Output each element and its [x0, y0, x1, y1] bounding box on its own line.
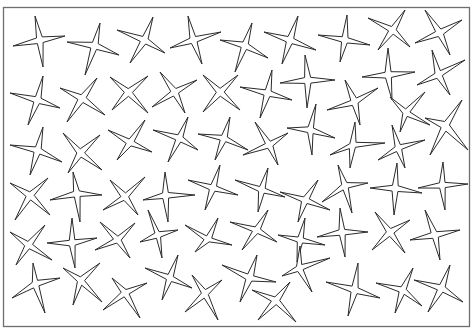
four-point-star-icon — [50, 172, 102, 222]
four-point-star-icon — [13, 16, 65, 67]
four-point-star-icon — [47, 218, 97, 268]
four-point-star-icon — [103, 278, 147, 318]
four-point-star-icon — [410, 210, 460, 260]
four-point-star-icon — [185, 275, 222, 320]
four-point-star-icon — [327, 80, 378, 125]
four-point-star-icon — [145, 255, 192, 300]
four-point-star-icon — [203, 75, 240, 112]
four-point-star-icon — [140, 210, 178, 258]
four-point-star-icon — [10, 127, 62, 175]
four-point-star-icon — [103, 177, 145, 215]
four-point-star-icon — [12, 263, 60, 313]
four-point-star-icon — [152, 72, 197, 113]
four-point-star-icon — [368, 10, 410, 50]
four-point-star-icon — [185, 218, 232, 252]
four-point-star-icon — [415, 10, 462, 55]
four-point-star-icon — [220, 23, 268, 72]
four-point-star-icon — [10, 76, 60, 125]
four-point-star-icon — [188, 165, 238, 210]
four-point-star-icon — [63, 263, 102, 305]
stars-group — [10, 10, 468, 322]
four-point-star-icon — [372, 212, 410, 253]
four-point-star-icon — [418, 162, 468, 210]
four-point-star-icon — [378, 125, 425, 168]
four-point-star-icon — [108, 120, 152, 160]
four-point-star-icon — [10, 225, 52, 265]
four-point-star-icon — [287, 104, 335, 155]
four-point-star-icon — [110, 76, 148, 113]
four-point-star-icon — [390, 92, 430, 132]
four-point-star-icon — [153, 117, 198, 162]
star-pattern-canvas — [0, 0, 473, 331]
four-point-star-icon — [198, 117, 248, 160]
four-point-star-icon — [10, 178, 50, 220]
four-point-star-icon — [330, 122, 385, 168]
four-point-star-icon — [63, 133, 102, 173]
four-point-star-icon — [318, 15, 370, 62]
four-point-star-icon — [376, 268, 422, 313]
four-point-star-icon — [67, 23, 119, 75]
four-point-star-icon — [317, 208, 368, 257]
four-point-star-icon — [370, 163, 422, 215]
four-point-star-icon — [117, 17, 165, 63]
four-point-star-icon — [243, 122, 288, 165]
four-point-star-icon — [240, 70, 292, 118]
four-point-star-icon — [264, 16, 316, 64]
four-point-star-icon — [280, 55, 335, 108]
four-point-star-icon — [60, 78, 105, 122]
four-point-star-icon — [282, 246, 330, 292]
four-point-star-icon — [252, 282, 296, 322]
four-point-star-icon — [425, 100, 468, 155]
four-point-star-icon — [322, 165, 368, 213]
four-point-star-icon — [230, 210, 277, 250]
four-point-star-icon — [170, 16, 221, 64]
four-point-star-icon — [95, 222, 135, 258]
four-point-star-icon — [235, 168, 285, 212]
four-point-star-icon — [326, 263, 380, 316]
four-point-star-icon — [417, 50, 465, 95]
four-point-star-icon — [278, 218, 325, 262]
